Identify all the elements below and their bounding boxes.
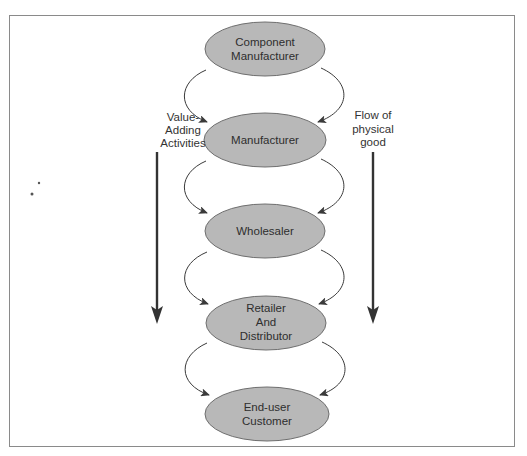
node-retailer-and-distributor: Retailer And Distributor — [206, 296, 326, 350]
node-manufacturer: Manufacturer — [204, 113, 326, 167]
value-adding-label: Value- Adding Activities — [160, 111, 206, 149]
node-wholesaler: Wholesaler — [205, 204, 325, 258]
node-component-manufacturer: Component Manufacturer — [205, 22, 325, 76]
stray-dot — [38, 182, 40, 184]
physical-flow-arrow — [367, 152, 379, 324]
label-line: Activities — [160, 137, 206, 149]
label-line: physical — [352, 123, 394, 135]
node-end-user-customer: End-user Customer — [205, 387, 329, 441]
node-label: Component — [235, 36, 295, 48]
connector-3-right — [319, 250, 344, 304]
label-line: good — [360, 136, 386, 148]
node-label: Customer — [242, 415, 292, 427]
connector-2-right — [318, 159, 344, 213]
node-label: Retailer — [246, 302, 286, 314]
diagram-svg: Component Manufacturer Manufacturer Whol… — [0, 0, 527, 456]
node-label: Manufacturer — [231, 50, 299, 62]
connector-4-right — [320, 342, 345, 395]
node-label: Wholesaler — [236, 225, 294, 237]
node-label: Manufacturer — [231, 134, 299, 146]
label-line: Flow of — [354, 109, 392, 121]
diagram-canvas: Component Manufacturer Manufacturer Whol… — [0, 0, 527, 456]
node-label: End-user — [244, 401, 291, 413]
connector-2-left — [184, 161, 207, 213]
physical-flow-label: Flow of physical good — [352, 109, 394, 148]
connector-4-left — [185, 343, 209, 395]
value-adding-arrow — [151, 152, 163, 324]
node-label: Distributor — [240, 330, 293, 342]
node-label: And — [256, 316, 276, 328]
stray-dot — [31, 193, 34, 196]
label-line: Adding — [165, 124, 201, 136]
label-line: Value- — [167, 111, 200, 123]
connector-3-left — [185, 252, 208, 304]
connector-1-right — [318, 68, 344, 122]
